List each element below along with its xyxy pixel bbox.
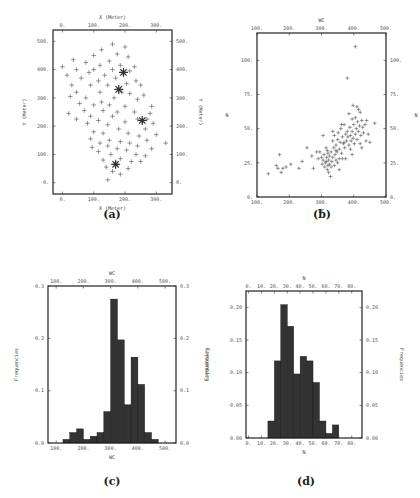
data-point-marker bbox=[134, 79, 139, 84]
x-tick-label-bottom: 500. bbox=[380, 199, 392, 205]
y-tick-label-left: 200. bbox=[37, 123, 49, 129]
y-tick-label-right: 500. bbox=[176, 38, 188, 44]
y-axis-label-right: Frequencies bbox=[398, 348, 405, 381]
data-point-marker bbox=[331, 130, 335, 134]
data-point-marker bbox=[347, 112, 351, 116]
x-tick-label-bottom: 300. bbox=[315, 199, 327, 205]
data-point-marker bbox=[365, 119, 369, 123]
data-point-marker bbox=[278, 153, 282, 157]
x-tick-label-bottom: 30. bbox=[283, 440, 292, 446]
x-tick-label-bottom: 100. bbox=[251, 199, 263, 205]
data-point-marker bbox=[137, 134, 142, 139]
data-point-marker bbox=[300, 160, 304, 164]
panel-a-spatial-scatter: 0.0.100.100.200.200.300.300.0.0.100.100.… bbox=[21, 14, 204, 211]
data-point-marker bbox=[74, 67, 79, 72]
data-point-marker bbox=[110, 114, 115, 119]
data-point-marker bbox=[98, 90, 103, 95]
data-point-marker bbox=[106, 122, 111, 127]
data-point-marker bbox=[134, 152, 139, 157]
cluster-marker-center bbox=[117, 87, 121, 91]
x-tick-label-top: 100. bbox=[251, 25, 263, 31]
y-tick-label-right: 0.00 bbox=[366, 435, 378, 441]
data-point-marker bbox=[115, 52, 120, 57]
data-point-marker bbox=[85, 121, 90, 126]
y-axis-label-left: Y (Meter) bbox=[21, 98, 27, 125]
data-point-marker bbox=[354, 132, 358, 136]
histogram-bar bbox=[111, 299, 118, 443]
data-point-marker bbox=[65, 73, 70, 78]
y-tick-label-left: 25. bbox=[244, 160, 253, 166]
data-point-marker bbox=[336, 161, 340, 165]
y-tick-label-right: 25. bbox=[390, 160, 399, 166]
x-tick-label-top: 200. bbox=[283, 25, 295, 31]
data-point-marker bbox=[318, 150, 322, 154]
data-point-marker bbox=[361, 126, 365, 130]
x-tick-label-top: 10. bbox=[257, 283, 266, 289]
data-point-marker bbox=[143, 154, 148, 159]
data-point-marker bbox=[118, 172, 123, 177]
x-tick-label-top: 70. bbox=[334, 283, 343, 289]
histogram-bar bbox=[90, 436, 97, 443]
x-tick-label-bottom: 40. bbox=[296, 440, 305, 446]
data-point-marker bbox=[149, 146, 154, 151]
data-point-marker bbox=[91, 103, 96, 108]
data-point-marker bbox=[364, 139, 368, 143]
y-axis-label-left: Frequencies bbox=[13, 348, 20, 381]
data-point-marker bbox=[123, 120, 128, 125]
data-point-marker bbox=[326, 151, 330, 155]
data-point-marker bbox=[106, 83, 111, 88]
data-point-marker bbox=[341, 135, 345, 139]
histogram-bar bbox=[70, 433, 77, 443]
data-point-marker bbox=[360, 146, 364, 150]
x-tick-label-bottom: 400. bbox=[348, 199, 360, 205]
data-point-marker bbox=[336, 131, 340, 135]
data-point-marker bbox=[344, 132, 348, 136]
data-point-marker bbox=[113, 76, 118, 81]
data-point-marker bbox=[323, 165, 327, 169]
data-point-marker bbox=[106, 144, 111, 149]
caption-a: (a) bbox=[103, 208, 121, 221]
y-tick-label-left: 0. bbox=[247, 194, 253, 200]
data-point-marker bbox=[115, 110, 120, 115]
data-point-marker bbox=[126, 166, 131, 171]
histogram-bar bbox=[97, 433, 104, 443]
data-point-marker bbox=[289, 162, 293, 166]
data-point-marker bbox=[332, 146, 336, 150]
data-point-marker bbox=[87, 70, 92, 75]
data-point-marker bbox=[118, 139, 123, 144]
data-point-marker bbox=[350, 153, 354, 157]
cluster-marker-center bbox=[121, 70, 125, 74]
data-point-marker bbox=[88, 83, 93, 88]
y-tick-label-left: 300. bbox=[37, 95, 49, 101]
data-point-marker bbox=[320, 162, 324, 166]
x-tick-label-bottom: 60. bbox=[321, 440, 330, 446]
x-tick-label-bottom: 100. bbox=[50, 445, 62, 451]
x-tick-label-top: 0. bbox=[59, 22, 65, 28]
y-tick-label-left: 0.15 bbox=[230, 337, 242, 343]
data-point-marker bbox=[96, 149, 101, 154]
data-point-marker bbox=[148, 111, 153, 116]
data-point-marker bbox=[368, 141, 372, 145]
x-tick-label-top: 100. bbox=[88, 22, 100, 28]
y-tick-label-right: 0.0 bbox=[180, 440, 189, 446]
data-point-marker bbox=[127, 141, 132, 146]
data-point-marker bbox=[82, 108, 87, 113]
data-point-marker bbox=[346, 130, 350, 134]
data-point-marker bbox=[107, 138, 112, 143]
y-tick-label-right: 0.1 bbox=[180, 387, 189, 393]
y-tick-label-left: 0.20 bbox=[230, 304, 242, 310]
data-point-marker bbox=[138, 83, 143, 88]
data-point-marker bbox=[91, 53, 96, 58]
data-point-marker bbox=[366, 132, 370, 136]
data-point-marker bbox=[297, 167, 301, 171]
data-point-marker bbox=[84, 96, 89, 101]
data-point-marker bbox=[352, 123, 356, 127]
data-point-marker bbox=[123, 104, 128, 109]
data-point-marker bbox=[329, 165, 333, 169]
y-axis-label-right: Y (Meter) bbox=[198, 98, 204, 125]
y-tick-label-left: 50. bbox=[244, 125, 253, 131]
x-tick-label-top: 40. bbox=[296, 283, 305, 289]
data-point-marker bbox=[145, 138, 150, 143]
data-point-marker bbox=[333, 153, 337, 157]
x-axis-label-top: WC bbox=[318, 17, 324, 23]
